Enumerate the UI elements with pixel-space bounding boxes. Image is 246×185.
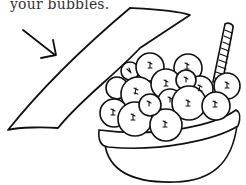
bubbles-bowl-illustration: [0, 0, 246, 185]
arrow-icon: [23, 30, 56, 58]
